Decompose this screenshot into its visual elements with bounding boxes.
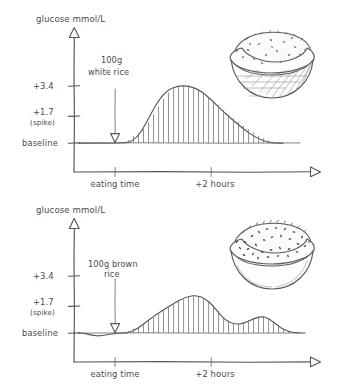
- y-tick-label-baseline-white: baseline: [22, 138, 58, 148]
- brown-rice-chart-svg: glucose mmol/L +3.4 +1.7 (spike) baselin…: [0, 195, 337, 390]
- eating-time-arrow-brown: [111, 279, 120, 333]
- x-tick-label-eating-time-brown: eating time: [90, 369, 139, 379]
- glucose-curve-white: [79, 86, 283, 143]
- x-tick-label-eating-time-white: eating time: [90, 179, 139, 189]
- y-axis-white: [69, 28, 79, 173]
- curve-hatching-brown: [129, 296, 289, 333]
- chart-panel-brown-rice: glucose mmol/L +3.4 +1.7 (spike) baselin…: [0, 195, 337, 390]
- brown-rice-bowl-icon: [230, 220, 314, 289]
- y-tick-label-3-4-brown: +3.4: [33, 271, 54, 281]
- glucose-curve-brown: [79, 296, 305, 336]
- y-tick-label-baseline-brown: baseline: [22, 328, 58, 338]
- annotation-line2-brown: rice: [104, 269, 120, 279]
- y-axis-label-brown: glucose mmol/L: [36, 205, 105, 215]
- chart-panel-white-rice: glucose mmol/L +3.4 +1.7 (spike) baselin…: [0, 0, 337, 195]
- x-axis-brown: [74, 357, 321, 367]
- y-tick-label-1-7-white: +1.7: [33, 107, 54, 117]
- y-axis-label-white: glucose mmol/L: [36, 14, 105, 24]
- y-tick-label-spike-note-white: (spike): [30, 118, 55, 127]
- annotation-line1-brown: 100g brown: [88, 259, 138, 269]
- x-tick-label-two-hours-brown: +2 hours: [195, 369, 234, 379]
- annotation-line1-white: 100g: [101, 55, 122, 65]
- y-tick-label-1-7-brown: +1.7: [33, 297, 54, 307]
- x-axis-white: [74, 167, 321, 177]
- x-tick-label-two-hours-white: +2 hours: [195, 179, 234, 189]
- y-tick-label-3-4-white: +3.4: [33, 81, 54, 91]
- eating-time-arrow-white: [111, 89, 120, 143]
- y-axis-brown: [69, 219, 79, 363]
- white-rice-chart-svg: glucose mmol/L +3.4 +1.7 (spike) baselin…: [0, 0, 337, 195]
- white-rice-bowl-icon: [230, 31, 314, 99]
- y-tick-label-spike-note-brown: (spike): [30, 308, 55, 317]
- annotation-line2-white: white rice: [88, 67, 129, 77]
